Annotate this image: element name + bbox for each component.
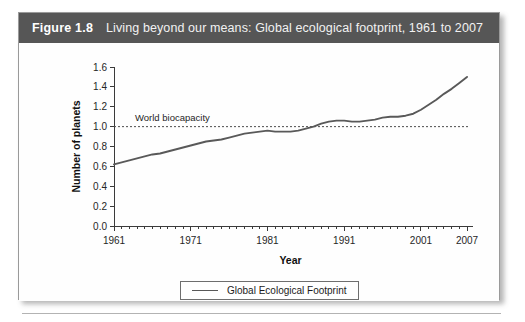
page-divider-rule [22,313,501,314]
svg-text:0.6: 0.6 [93,161,107,172]
svg-text:0.8: 0.8 [93,141,107,152]
svg-text:1981: 1981 [256,235,279,246]
figure-header: Figure 1.8 Living beyond our means: Glob… [19,13,499,43]
legend-line-swatch [192,290,218,291]
svg-text:1961: 1961 [103,235,126,246]
svg-text:2001: 2001 [410,235,433,246]
svg-text:1971: 1971 [180,235,203,246]
line-chart: 0.00.20.40.60.81.01.21.41.6 196119711981… [19,43,501,301]
svg-text:0.4: 0.4 [93,181,107,192]
figure-container: Figure 1.8 Living beyond our means: Glob… [18,12,500,300]
y-axis-title: Number of planets [70,100,82,192]
svg-text:1991: 1991 [333,235,356,246]
legend-label: Global Ecological Footprint [227,285,347,296]
svg-text:0.0: 0.0 [93,221,107,232]
figure-number: Figure 1.8 [32,21,93,35]
svg-text:1.2: 1.2 [93,101,107,112]
svg-text:1.0: 1.0 [93,121,107,132]
figure-caption: Living beyond our means: Global ecologic… [106,21,483,35]
world-biocapacity-label: World biocapacity [135,112,210,123]
y-axis-ticks: 0.00.20.40.60.81.01.21.41.6 [93,62,114,232]
svg-text:0.2: 0.2 [93,201,107,212]
x-axis-title: Year [279,254,301,266]
svg-text:1.4: 1.4 [93,81,107,92]
svg-text:1.6: 1.6 [93,62,107,73]
chart-legend: Global Ecological Footprint [180,281,359,300]
svg-text:2007: 2007 [456,235,479,246]
chart-area: 0.00.20.40.60.81.01.21.41.6 196119711981… [19,43,499,301]
